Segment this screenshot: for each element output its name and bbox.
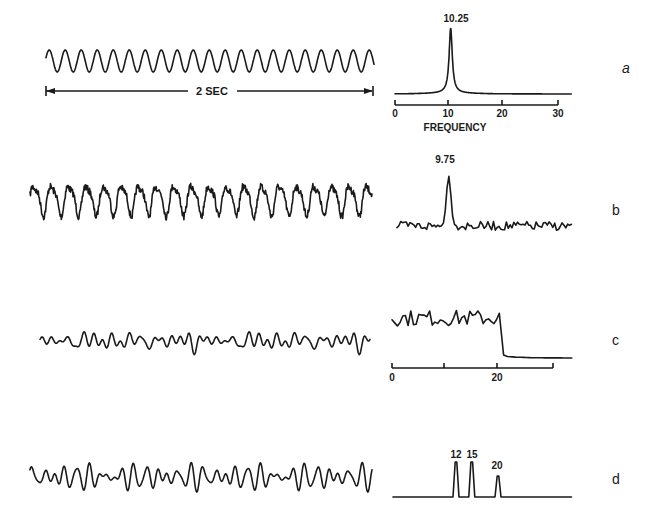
peak-label-20: 20	[491, 460, 503, 471]
sine-waveform	[46, 50, 374, 72]
time-scale-label: 2 SEC	[196, 85, 228, 97]
spectrum-d	[393, 462, 572, 497]
tick-label: 0	[389, 372, 395, 383]
tick-label: 0	[392, 108, 398, 119]
panel-a: 2 SEC 10.25 0 10 20 30 FREQUENCY a	[46, 13, 630, 133]
peak-label-b: 9.75	[435, 154, 455, 165]
time-scale-bar: 2 SEC	[46, 85, 373, 97]
frequency-axis-a: 0 10 20 30 FREQUENCY	[392, 100, 564, 133]
spectrum-a	[395, 29, 571, 95]
peak-label-a: 10.25	[443, 13, 468, 24]
panel-b: 9.75 b	[30, 154, 620, 230]
tick-label: 20	[496, 108, 508, 119]
panel-letter-b: b	[612, 202, 620, 218]
frequency-axis-c: 0 20	[389, 363, 553, 383]
panel-letter-c: c	[612, 332, 619, 348]
panel-letter-d: d	[612, 471, 620, 487]
panel-c: 0 20 c	[40, 311, 619, 384]
tick-label: 20	[491, 372, 503, 383]
peak-label-15: 15	[466, 449, 478, 460]
noisy-waveform	[30, 183, 372, 220]
frequency-axis-title: FREQUENCY	[424, 122, 487, 133]
broadband-waveform	[40, 332, 370, 355]
spectrum-c	[392, 311, 572, 359]
tick-label: 30	[552, 108, 564, 119]
spectrum-b	[397, 176, 571, 230]
panel-letter-a: a	[622, 60, 630, 76]
tick-label: 10	[442, 108, 454, 119]
panel-d: 12 15 20 d	[30, 449, 620, 497]
figure: 2 SEC 10.25 0 10 20 30 FREQUENCY a 9.75 …	[0, 0, 649, 514]
beating-waveform	[30, 463, 372, 492]
peak-label-12: 12	[450, 449, 462, 460]
